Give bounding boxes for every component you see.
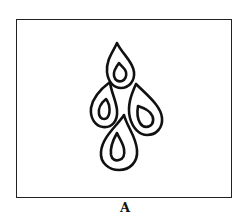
teardrop-left <box>91 82 117 127</box>
figure-label: A <box>0 200 250 215</box>
teardrop-cluster <box>0 0 250 221</box>
teardrop-right <box>129 84 162 135</box>
